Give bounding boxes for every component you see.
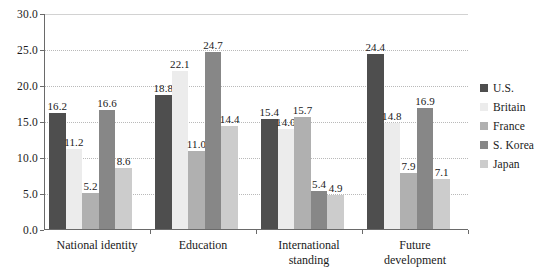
bar-chart: 16.211.25.216.68.618.822.111.024.714.415… bbox=[0, 0, 535, 272]
bar[interactable]: 24.7 bbox=[205, 52, 222, 230]
x-tick-mark bbox=[362, 230, 363, 234]
legend-item[interactable]: S. Korea bbox=[480, 135, 532, 154]
bar[interactable]: 14.8 bbox=[384, 123, 401, 230]
bar-value-label: 4.9 bbox=[329, 183, 343, 194]
legend: U.S.BritainFranceS. KoreaJapan bbox=[480, 78, 532, 173]
bar-value-label: 24.7 bbox=[203, 40, 223, 51]
bar-value-label: 16.2 bbox=[47, 101, 67, 112]
bar-value-label: 7.1 bbox=[435, 167, 449, 178]
legend-swatch-icon bbox=[480, 84, 488, 92]
bar-value-label: 11.2 bbox=[64, 137, 83, 148]
y-tick-mark bbox=[40, 158, 44, 159]
legend-item[interactable]: Britain bbox=[480, 97, 532, 116]
bar-group: 15.414.015.75.44.9 bbox=[261, 14, 344, 230]
bar-value-label: 14.4 bbox=[220, 114, 240, 125]
y-tick-mark bbox=[40, 230, 44, 231]
y-tick-mark bbox=[40, 194, 44, 195]
bar-value-label: 7.9 bbox=[401, 161, 415, 172]
x-axis-label: Education bbox=[150, 238, 256, 253]
bar[interactable]: 16.9 bbox=[417, 108, 434, 230]
bar[interactable]: 15.7 bbox=[294, 117, 311, 230]
y-tick-label: 10.0 bbox=[17, 152, 38, 164]
bar[interactable]: 22.1 bbox=[172, 71, 189, 230]
bar-value-label: 15.7 bbox=[293, 105, 313, 116]
legend-swatch-icon bbox=[480, 103, 488, 111]
bar[interactable]: 8.6 bbox=[115, 168, 132, 230]
bar[interactable]: 5.4 bbox=[311, 191, 328, 230]
bar-value-label: 22.1 bbox=[170, 59, 190, 70]
x-axis-label: National identity bbox=[44, 238, 150, 253]
bar-group: 18.822.111.024.714.4 bbox=[155, 14, 238, 230]
y-tick-label: 30.0 bbox=[17, 8, 38, 20]
y-tick-mark bbox=[40, 122, 44, 123]
bar[interactable]: 14.0 bbox=[278, 129, 295, 230]
bar[interactable]: 24.4 bbox=[367, 54, 384, 230]
bar[interactable]: 4.9 bbox=[327, 195, 344, 230]
bar[interactable]: 11.0 bbox=[188, 151, 205, 230]
y-tick-label: 20.0 bbox=[17, 80, 38, 92]
bar[interactable]: 14.4 bbox=[221, 126, 238, 230]
bar[interactable]: 18.8 bbox=[155, 95, 172, 230]
bar[interactable]: 7.9 bbox=[400, 173, 417, 230]
x-tick-mark bbox=[256, 230, 257, 234]
legend-label: France bbox=[493, 120, 525, 132]
legend-item[interactable]: U.S. bbox=[480, 78, 532, 97]
x-tick-mark bbox=[468, 230, 469, 234]
bar[interactable]: 11.2 bbox=[66, 149, 83, 230]
bar-value-label: 5.4 bbox=[312, 179, 326, 190]
x-axis-label: Future development bbox=[362, 238, 468, 267]
y-tick-label: 15.0 bbox=[17, 116, 38, 128]
bar[interactable]: 15.4 bbox=[261, 119, 278, 230]
bar-value-label: 11.0 bbox=[187, 139, 206, 150]
legend-label: Japan bbox=[493, 158, 520, 170]
legend-label: S. Korea bbox=[493, 139, 534, 151]
plot-area: 16.211.25.216.68.618.822.111.024.714.415… bbox=[44, 14, 468, 230]
y-tick-label: 25.0 bbox=[17, 44, 38, 56]
bar-value-label: 8.6 bbox=[117, 156, 131, 167]
bar-value-label: 18.8 bbox=[153, 83, 173, 94]
legend-swatch-icon bbox=[480, 141, 488, 149]
bar-value-label: 14.8 bbox=[382, 111, 402, 122]
bar-value-label: 24.4 bbox=[365, 42, 385, 53]
legend-item[interactable]: France bbox=[480, 116, 532, 135]
bar[interactable]: 16.2 bbox=[49, 113, 66, 230]
legend-swatch-icon bbox=[480, 160, 488, 168]
y-tick-mark bbox=[40, 50, 44, 51]
legend-item[interactable]: Japan bbox=[480, 154, 532, 173]
x-axis-label: International standing bbox=[256, 238, 362, 267]
bar-value-label: 16.6 bbox=[97, 98, 117, 109]
bar-value-label: 5.2 bbox=[83, 181, 97, 192]
y-tick-mark bbox=[40, 86, 44, 87]
legend-swatch-icon bbox=[480, 122, 488, 130]
bar[interactable]: 16.6 bbox=[99, 110, 116, 230]
y-tick-label: 5.0 bbox=[23, 188, 38, 200]
y-axis-line bbox=[44, 14, 45, 230]
x-tick-mark bbox=[150, 230, 151, 234]
bar-value-label: 14.0 bbox=[276, 117, 296, 128]
bar-value-label: 16.9 bbox=[415, 96, 435, 107]
y-tick-label: 0.0 bbox=[23, 224, 38, 236]
bar-group: 16.211.25.216.68.6 bbox=[49, 14, 132, 230]
legend-label: U.S. bbox=[493, 82, 514, 94]
legend-label: Britain bbox=[493, 101, 526, 113]
y-tick-mark bbox=[40, 14, 44, 15]
bar[interactable]: 5.2 bbox=[82, 193, 99, 230]
bar[interactable]: 7.1 bbox=[433, 179, 450, 230]
bar-group: 24.414.87.916.97.1 bbox=[367, 14, 450, 230]
